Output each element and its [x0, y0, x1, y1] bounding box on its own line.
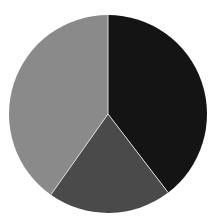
pie-chart: [0, 0, 220, 217]
